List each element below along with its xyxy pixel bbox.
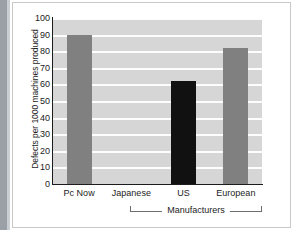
figure-page: Defects per 1000 machines produced 10090…	[0, 0, 293, 230]
bracket-end-tick	[130, 206, 131, 212]
x-axis-tick-label: US	[177, 188, 190, 198]
bracket-arm	[230, 211, 262, 212]
y-axis-tick-label: 100	[24, 14, 50, 23]
gridline	[53, 18, 262, 20]
y-axis-tick-label: 30	[24, 130, 50, 139]
y-axis-tick-label: 50	[24, 97, 50, 106]
y-axis-tick-label: 0	[24, 180, 50, 189]
y-axis-tick-labels: 1009080706050403020100	[24, 18, 50, 184]
y-axis-tick-label: 10	[24, 163, 50, 172]
x-axis-tick-labels: Pc NowJapaneseUSEuropean	[53, 188, 262, 202]
y-axis-line	[52, 17, 53, 185]
bar-pc-now	[67, 35, 92, 184]
y-axis-tick-label: 60	[24, 80, 50, 89]
bracket-arm	[130, 211, 162, 212]
y-axis-tick-label: 80	[24, 47, 50, 56]
manufacturers-bracket: Manufacturers	[130, 205, 262, 219]
bracket-end-tick	[261, 206, 262, 212]
page-edge-shadow	[0, 0, 7, 230]
page-edge-shadow-inner	[7, 0, 10, 230]
y-axis-tick-label: 40	[24, 113, 50, 122]
x-axis-title: Manufacturers	[130, 205, 262, 215]
bar-chart: Defects per 1000 machines produced 10090…	[12, 2, 291, 228]
bar-us	[171, 81, 196, 184]
bar-european	[223, 48, 248, 184]
y-axis-tick-label: 70	[24, 63, 50, 72]
x-axis-line	[52, 184, 263, 185]
y-axis-tick-label: 20	[24, 146, 50, 155]
y-axis-tick-label: 90	[24, 30, 50, 39]
x-axis-tick-label: Pc Now	[64, 188, 95, 198]
x-axis-tick-label: European	[216, 188, 255, 198]
x-axis-tick-label: Japanese	[112, 188, 151, 198]
plot-area	[53, 18, 262, 184]
